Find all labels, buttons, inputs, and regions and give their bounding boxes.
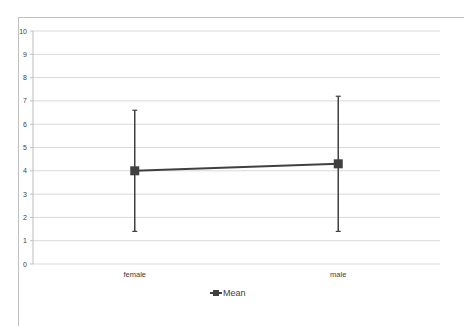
- legend-marker-icon: [213, 290, 219, 296]
- series-line: [135, 164, 339, 171]
- data-point-marker: [130, 166, 139, 175]
- y-tick-label: 10: [19, 28, 27, 35]
- gridlines: [33, 31, 440, 264]
- data-point-marker: [334, 159, 343, 168]
- line-chart: 012345678910 femalemale Mean: [0, 0, 464, 326]
- y-tick-label: 2: [23, 214, 27, 221]
- y-tick-label: 9: [23, 51, 27, 58]
- y-axis-ticks: 012345678910: [19, 28, 33, 268]
- legend-label: Mean: [223, 288, 246, 298]
- x-category-label: female: [123, 270, 146, 279]
- legend: Mean: [210, 288, 246, 298]
- y-tick-label: 4: [23, 167, 27, 174]
- series-mean: [130, 159, 343, 175]
- y-tick-label: 1: [23, 237, 27, 244]
- y-tick-label: 8: [23, 74, 27, 81]
- x-axis-labels: femalemale: [123, 270, 346, 279]
- y-tick-label: 0: [23, 261, 27, 268]
- y-tick-label: 7: [23, 97, 27, 104]
- x-category-label: male: [330, 270, 346, 279]
- y-tick-label: 3: [23, 191, 27, 198]
- y-tick-label: 6: [23, 121, 27, 128]
- y-tick-label: 5: [23, 144, 27, 151]
